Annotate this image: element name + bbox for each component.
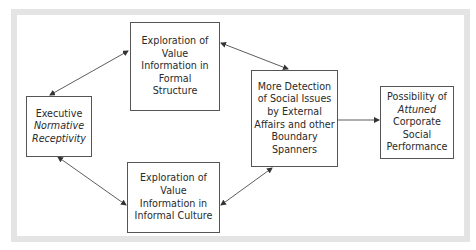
node-text: Exploration of [141,35,208,48]
edge-executive-formal [50,51,128,95]
node-text: Information in [141,60,208,73]
node-text: Affairs and other [254,119,334,132]
node-text: Spanners [254,144,334,157]
node-text: Exploration of [135,172,213,185]
node-text: Corporate [387,116,448,129]
node-text: of Social Issues [254,93,334,106]
node-text: Value [135,185,213,198]
node-text: Attuned [387,104,448,117]
node-text: Boundary [254,131,334,144]
node-text: Receptivity [32,133,86,146]
node-formal-structure: Exploration of Value Information in Form… [130,22,220,111]
node-text: Structure [141,85,208,98]
node-detection-social-issues: More Detection of Social Issues by Exter… [251,70,338,167]
node-text: by External [254,106,334,119]
node-text: Executive [32,108,86,121]
edge-informal-detection [221,168,272,205]
node-text: Social [387,129,448,142]
node-text: Formal [141,73,208,86]
edge-executive-informal [58,157,126,205]
node-informal-culture: Exploration of Value Information in Info… [127,162,220,233]
node-attuned-csp: Possibility of Attuned Corporate Social … [380,86,454,159]
node-text: More Detection [254,81,334,94]
node-text: Normative [32,120,86,133]
node-text: Possibility of [387,91,448,104]
node-executive-normative-receptivity: Executive Normative Receptivity [26,96,92,157]
node-text: Informal Culture [135,210,213,223]
node-text: Value [141,48,208,61]
node-text: Information in [135,198,213,211]
edge-formal-detection [221,43,288,69]
node-text: Performance [387,141,448,154]
